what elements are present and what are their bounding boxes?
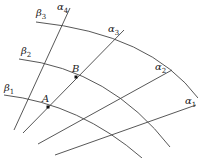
curvilinear-grid-diagram: α4 α3 α2 α1 β3 β2 β1 A B bbox=[0, 0, 198, 158]
point-a-marker bbox=[47, 106, 50, 109]
point-b-label: B bbox=[72, 64, 79, 74]
alpha2-line bbox=[38, 70, 172, 144]
grid-lines bbox=[0, 0, 198, 158]
alpha3-label: α3 bbox=[108, 24, 119, 37]
beta3-label: β3 bbox=[36, 8, 46, 21]
alpha3-line bbox=[23, 30, 124, 133]
alpha4-line bbox=[14, 8, 70, 130]
alpha4-label: α4 bbox=[57, 2, 68, 15]
point-a-label: A bbox=[42, 94, 49, 104]
alpha2-label: α2 bbox=[155, 62, 166, 75]
alpha1-label: α1 bbox=[185, 96, 196, 109]
point-b-marker bbox=[75, 76, 78, 79]
beta1-label: β1 bbox=[4, 83, 14, 96]
alpha1-line bbox=[55, 105, 196, 155]
beta2-label: β2 bbox=[21, 46, 31, 59]
